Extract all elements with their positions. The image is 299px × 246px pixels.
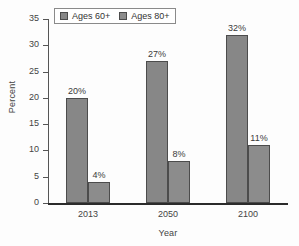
legend-swatch-icon	[119, 12, 127, 20]
x-axis-title: Year	[48, 228, 288, 238]
y-axis-tick-label: 35	[3, 13, 39, 23]
bar-group: 32%11%	[226, 19, 270, 203]
bar-chart: Percent Year 05101520253035 20%4%27%8%32…	[0, 0, 299, 246]
legend-item[interactable]: Ages 60+	[60, 11, 110, 21]
bar-value-label: 32%	[218, 23, 256, 33]
y-axis-tick-label: 30	[3, 39, 39, 49]
bar-value-label: 20%	[58, 86, 96, 96]
legend-label: Ages 60+	[72, 11, 110, 21]
legend-swatch-icon	[60, 12, 68, 20]
bar	[226, 35, 248, 203]
y-axis-tick-label: 20	[3, 92, 39, 102]
bar-value-label: 4%	[80, 170, 118, 180]
bar-group: 27%8%	[146, 19, 190, 203]
bar	[66, 98, 88, 203]
x-axis-category-label: 2100	[218, 209, 278, 219]
y-axis-tick-label: 0	[3, 197, 39, 207]
x-axis-line	[48, 203, 288, 205]
chart-legend: Ages 60+Ages 80+	[54, 8, 176, 24]
bar	[168, 161, 190, 203]
bar-value-label: 11%	[240, 133, 278, 143]
y-axis-tick-label: 5	[3, 171, 39, 181]
bar-group: 20%4%	[66, 19, 110, 203]
legend-item[interactable]: Ages 80+	[119, 11, 169, 21]
x-axis-category-label: 2050	[138, 209, 198, 219]
bar	[248, 145, 270, 203]
legend-label: Ages 80+	[131, 11, 169, 21]
plot-area: 20%4%27%8%32%11%	[48, 19, 288, 203]
y-axis-tick-label: 15	[3, 118, 39, 128]
y-axis-tick-label: 25	[3, 66, 39, 76]
x-axis-category-label: 2013	[58, 209, 118, 219]
bar-value-label: 27%	[138, 49, 176, 59]
y-axis-tick-mark	[43, 203, 48, 204]
bar-value-label: 8%	[160, 149, 198, 159]
y-axis-tick-label: 10	[3, 144, 39, 154]
bar	[88, 182, 110, 203]
bar	[146, 61, 168, 203]
